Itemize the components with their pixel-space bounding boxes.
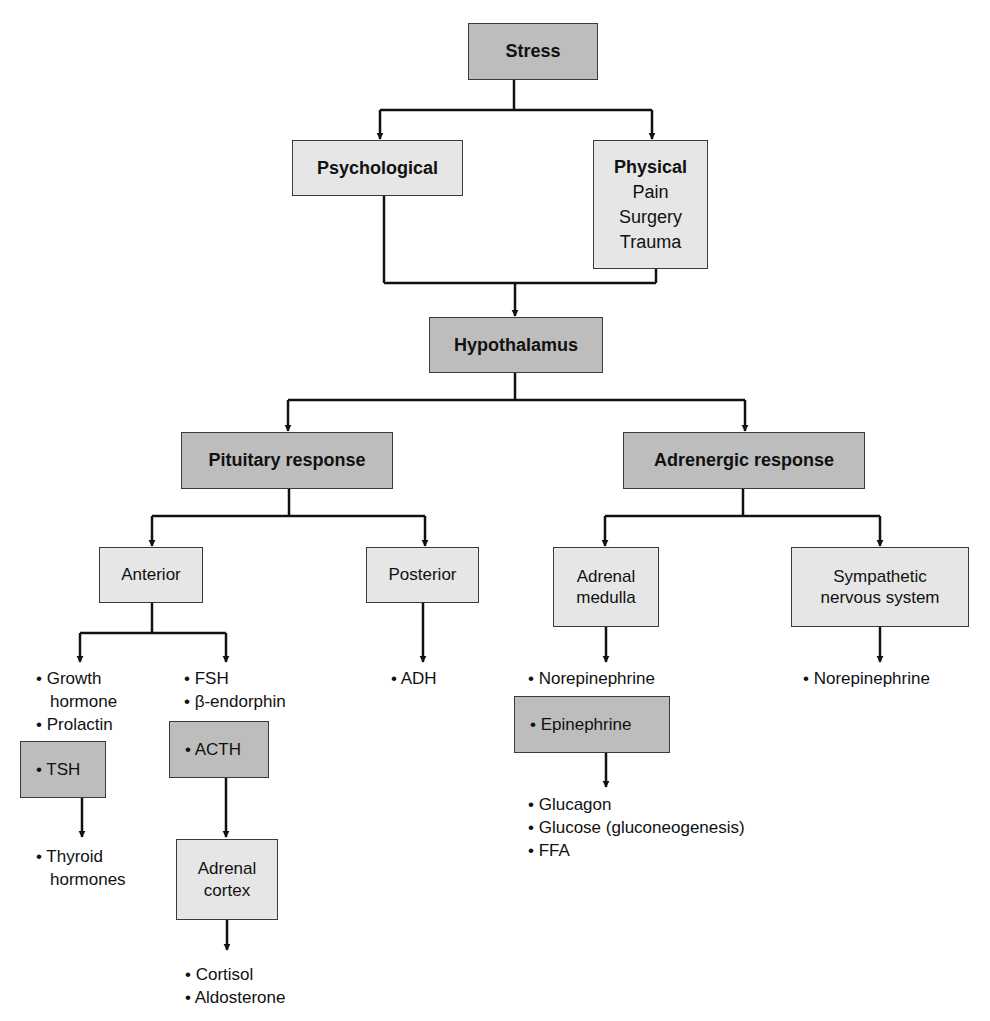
hypothalamus-node: Hypothalamus	[429, 317, 603, 373]
adrenal-medulla-line1: Adrenal	[577, 566, 636, 587]
pituitary-response-label: Pituitary response	[208, 449, 365, 472]
psychological-node: Psychological	[292, 140, 463, 196]
output-glucagon: • Glucagon	[528, 793, 745, 816]
adrenergic-response-node: Adrenergic response	[623, 432, 865, 489]
posterior-label: Posterior	[388, 564, 456, 585]
sympathetic-nervous-system-node: Sympathetic nervous system	[791, 547, 969, 627]
psychological-label: Psychological	[317, 157, 438, 180]
output-adh: • ADH	[391, 667, 437, 690]
output-ffa: • FFA	[528, 839, 745, 862]
adrenal-medulla-line2: medulla	[576, 587, 636, 608]
output-growth-hormone-cont: hormone	[36, 690, 117, 713]
output-growth-hormone: • Growth	[36, 667, 117, 690]
adrenal-cortex-node: Adrenal cortex	[176, 839, 278, 920]
epinephrine-outputs: • Glucagon • Glucose (gluconeogenesis) •…	[528, 793, 745, 862]
sympathetic-line2: nervous system	[820, 587, 939, 608]
sympathetic-line1: Sympathetic	[833, 566, 927, 587]
output-cortisol: • Cortisol	[185, 963, 285, 986]
anterior-left-outputs: • Growth hormone • Prolactin	[36, 667, 117, 736]
pituitary-response-node: Pituitary response	[181, 432, 393, 489]
output-thyroid-cont: hormones	[36, 868, 126, 891]
physical-node: Physical Pain Surgery Trauma	[593, 140, 708, 269]
posterior-node: Posterior	[366, 547, 479, 603]
acth-node: • ACTH	[169, 721, 269, 778]
connector-lines	[0, 0, 990, 1021]
output-norepinephrine-sympathetic: • Norepinephrine	[803, 667, 930, 690]
anterior-label: Anterior	[121, 564, 181, 585]
physical-item-trauma: Trauma	[620, 230, 681, 255]
physical-item-surgery: Surgery	[619, 205, 682, 230]
acth-label: • ACTH	[185, 739, 241, 760]
tsh-node: • TSH	[20, 741, 106, 798]
cortex-outputs: • Cortisol • Aldosterone	[185, 963, 285, 1009]
adrenal-medulla-node: Adrenal medulla	[553, 547, 659, 627]
physical-item-pain: Pain	[632, 180, 668, 205]
hypothalamus-label: Hypothalamus	[454, 334, 578, 357]
output-prolactin: • Prolactin	[36, 713, 117, 736]
adrenergic-response-label: Adrenergic response	[654, 449, 834, 472]
tsh-label: • TSH	[36, 759, 80, 780]
epinephrine-label: • Epinephrine	[530, 714, 631, 735]
anterior-node: Anterior	[99, 547, 203, 603]
medulla-outputs: • Norepinephrine	[528, 667, 655, 690]
output-fsh: • FSH	[184, 667, 286, 690]
posterior-outputs: • ADH	[391, 667, 437, 690]
output-aldosterone: • Aldosterone	[185, 986, 285, 1009]
thyroid-outputs: • Thyroid hormones	[36, 845, 126, 891]
output-norepinephrine-medulla: • Norepinephrine	[528, 667, 655, 690]
output-thyroid: • Thyroid	[36, 845, 126, 868]
sympathetic-outputs: • Norepinephrine	[803, 667, 930, 690]
stress-response-diagram: Stress Psychological Physical Pain Surge…	[0, 0, 990, 1021]
stress-node: Stress	[468, 23, 598, 80]
stress-label: Stress	[505, 40, 560, 63]
epinephrine-node: • Epinephrine	[514, 696, 670, 753]
anterior-right-outputs: • FSH • β-endorphin	[184, 667, 286, 713]
adrenal-cortex-line1: Adrenal	[198, 858, 257, 879]
physical-label: Physical	[614, 155, 687, 180]
adrenal-cortex-line2: cortex	[204, 880, 250, 901]
output-glucose: • Glucose (gluconeogenesis)	[528, 816, 745, 839]
output-beta-endorphin: • β-endorphin	[184, 690, 286, 713]
